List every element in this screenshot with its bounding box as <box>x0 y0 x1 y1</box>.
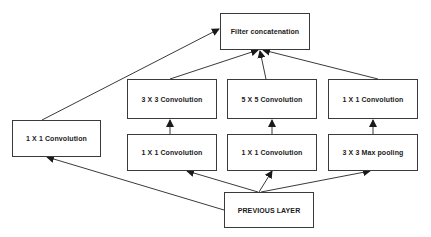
conv-1x1-direct-node: 1 X 1 Convolution <box>12 120 101 157</box>
node-label: 1 X 1 Convolution <box>142 149 203 156</box>
node-label: PREVIOUS LAYER <box>238 207 301 214</box>
conv-1x1-pool-proj-node: 1 X 1 Convolution <box>328 79 418 119</box>
edge-prev-to-1x1-reduce-5x5 <box>259 171 272 192</box>
node-label: 3 X 3 Convolution <box>142 96 203 103</box>
node-label: 5 X 5 Convolution <box>242 96 303 103</box>
edge-prev-to-1x1-reduce-3x3 <box>187 171 258 192</box>
conv-1x1-reduce-3x3-node: 1 X 1 Convolution <box>127 134 217 171</box>
conv-5x5-node: 5 X 5 Convolution <box>227 79 317 119</box>
maxpool-3x3-node: 3 X 3 Max pooling <box>328 134 418 171</box>
edge-prev-to-maxpool <box>261 171 370 192</box>
node-label: Filter concatenation <box>231 28 300 35</box>
node-label: 1 X 1 Convolution <box>26 135 87 142</box>
conv-3x3-node: 3 X 3 Convolution <box>127 79 217 119</box>
previous-layer-node: PREVIOUS LAYER <box>224 192 314 228</box>
edge-5x5-to-concat <box>260 51 266 79</box>
edge-1x1-proj-to-concat <box>263 50 378 79</box>
filter-concatenation-node: Filter concatenation <box>220 13 310 50</box>
node-label: 1 X 1 Convolution <box>343 96 404 103</box>
node-label: 3 X 3 Max pooling <box>343 149 404 156</box>
node-label: 1 X 1 Convolution <box>242 149 303 156</box>
edge-3x3-to-concat <box>170 50 258 79</box>
conv-1x1-reduce-5x5-node: 1 X 1 Convolution <box>227 134 317 171</box>
